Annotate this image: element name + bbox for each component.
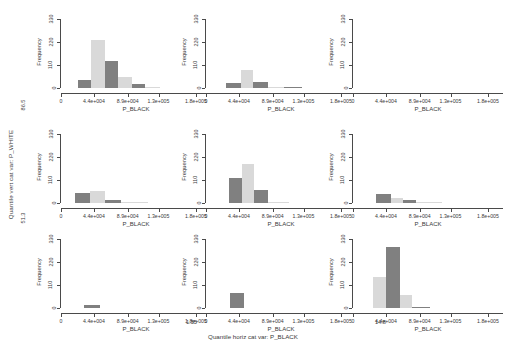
panel-r3c1-y-tickmark-0 bbox=[57, 308, 60, 309]
panel-r3c2-x-tickmark-3 bbox=[304, 314, 305, 317]
panel-r3c3-y-tickmark-3 bbox=[349, 239, 352, 240]
panel-r1c1-x-tick-label-0: 0 bbox=[45, 98, 77, 104]
panel-r1c2-x-tick-label-3: 1.3e+005 bbox=[288, 98, 320, 104]
panel-r3c2-x-tick-label-3: 1.3e+005 bbox=[288, 318, 320, 324]
panel-r2c3: Frequency011022033004.4e+0048.9e+0041.3e… bbox=[325, 129, 506, 231]
panel-r1c1-y-tickmark-0 bbox=[57, 88, 60, 89]
panel-r2c1-x-tickmark-1 bbox=[94, 209, 95, 212]
panel-r1c1-y-tick-label-2: 220 bbox=[37, 38, 55, 46]
panel-r3c1-y-tickmark-3 bbox=[57, 239, 60, 240]
panel-r1c2-bar-4 bbox=[284, 87, 302, 88]
y-tick-text: 110 bbox=[48, 61, 54, 70]
y-tick-text: 0 bbox=[51, 87, 57, 90]
panel-r2c3-x-tick-label-2: 8.9e+004 bbox=[404, 213, 436, 219]
panel-r2c3-bars bbox=[353, 131, 503, 203]
panel-r2c1-y-tickmark-1 bbox=[57, 180, 60, 181]
y-tick-text: 330 bbox=[340, 235, 346, 244]
panel-r3c1-x-tick-label-3: 1.3e+005 bbox=[143, 318, 175, 324]
panel-r1c2-bar-2 bbox=[253, 82, 268, 88]
y-tick-text: 0 bbox=[51, 202, 57, 205]
panel-r3c3-bar-1 bbox=[386, 247, 400, 308]
panel-r2c1-x-tick-label-1: 4.4e+004 bbox=[78, 213, 110, 219]
panel-r3c1-x-tickmark-0 bbox=[61, 314, 62, 317]
panel-r2c1-y-tickmark-2 bbox=[57, 157, 60, 158]
panel-r3c1-x-tickmark-3 bbox=[159, 314, 160, 317]
panel-r2c1-bar-0 bbox=[75, 193, 90, 203]
panel-r1c3-x-tick-label-2: 8.9e+004 bbox=[404, 98, 436, 104]
panel-r3c3-x-tickmark-4 bbox=[488, 314, 489, 317]
panel-r3c2-x-tick-label-0: 0 bbox=[190, 318, 222, 324]
panel-r2c1-y-tick-label-2: 220 bbox=[37, 153, 55, 161]
panel-r1c1-bar-3 bbox=[118, 77, 132, 88]
panel-r2c3-plot-area bbox=[353, 131, 503, 203]
panel-r1c2-x-tick-label-0: 0 bbox=[190, 98, 222, 104]
y-tick-text: 110 bbox=[340, 61, 346, 70]
panel-r1c2-y-tickmark-3 bbox=[202, 19, 205, 20]
panel-r2c2-y-tickmark-1 bbox=[202, 180, 205, 181]
panel-r3c1-bar-0 bbox=[84, 305, 101, 308]
panel-r3c1-y-tickmark-2 bbox=[57, 262, 60, 263]
panel-r1c2-x-tick-label-2: 8.9e+004 bbox=[257, 98, 289, 104]
panel-r3c1-y-tick-label-0: 0 bbox=[37, 304, 55, 312]
panel-r1c2-y-tick-label-2: 220 bbox=[182, 38, 200, 46]
panel-r2c3-bar-3 bbox=[416, 202, 442, 203]
y-tick-text: 110 bbox=[340, 281, 346, 290]
outer-y-axis-label: Quantile vert cat var: P_WHITE bbox=[4, 0, 18, 349]
panel-r2c2-y-tickmark-3 bbox=[202, 134, 205, 135]
panel-r1c3-x-tickmark-3 bbox=[451, 94, 452, 97]
panel-r2c3-x-tick-label-4: 1.8e+005 bbox=[472, 213, 504, 219]
panel-r1c1-bar-2 bbox=[105, 61, 119, 88]
y-tick-text: 110 bbox=[193, 281, 199, 290]
panel-r3c3-y-tick-label-3: 330 bbox=[329, 235, 347, 243]
panel-r3c1-y-tick-label-1: 110 bbox=[37, 281, 55, 289]
panel-r1c3-y-tick-label-0: 0 bbox=[329, 84, 347, 92]
panel-r1c1-y-tick-label-1: 110 bbox=[37, 61, 55, 69]
panel-r1c3-x-tickmark-1 bbox=[386, 94, 387, 97]
panel-r1c3-x-tickmark-4 bbox=[488, 94, 489, 97]
panel-r2c3-y-tick-label-1: 110 bbox=[329, 176, 347, 184]
panel-r3c3-bars bbox=[353, 236, 503, 308]
panel-r3c3-y-axis-label: Frequency bbox=[325, 236, 336, 308]
panel-r1c1-y-tick-label-3: 330 bbox=[37, 15, 55, 23]
y-tick-text: 330 bbox=[340, 130, 346, 139]
panel-r2c1-y-tickmark-3 bbox=[57, 134, 60, 135]
outer-y-tick-1: 51.3 bbox=[12, 213, 34, 223]
panel-r3c2-y-tickmark-2 bbox=[202, 262, 205, 263]
panel-r2c1-x-tickmark-2 bbox=[128, 209, 129, 212]
panel-r2c3-y-tickmark-1 bbox=[349, 180, 352, 181]
panel-r2c1-x-tick-label-2: 8.9e+004 bbox=[112, 213, 144, 219]
panel-r1c3-y-tickmark-3 bbox=[349, 19, 352, 20]
panel-r2c1-y-tick-label-3: 330 bbox=[37, 130, 55, 138]
panel-r3c2-x-tick-label-1: 4.4e+004 bbox=[223, 318, 255, 324]
y-tick-text: 0 bbox=[196, 202, 202, 205]
panel-r3c3-x-tick-label-3: 1.3e+005 bbox=[435, 318, 467, 324]
panel-r1c2-x-tickmark-2 bbox=[273, 94, 274, 97]
panel-r2c2-bar-2 bbox=[254, 190, 268, 203]
panel-r2c1-y-tickmark-0 bbox=[57, 203, 60, 204]
panel-r3c3-x-axis-line bbox=[353, 313, 503, 314]
panel-r2c3-x-tickmark-4 bbox=[488, 209, 489, 212]
panel-r1c1-x-tickmark-2 bbox=[128, 94, 129, 97]
panel-r1c2-x-tick-label-1: 4.4e+004 bbox=[223, 98, 255, 104]
panel-r3c2-y-tick-label-0: 0 bbox=[182, 304, 200, 312]
panel-r2c2-x-tick-label-1: 4.4e+004 bbox=[223, 213, 255, 219]
panel-r2c3-bar-2 bbox=[403, 200, 417, 203]
panel-r1c2-y-tickmark-2 bbox=[202, 42, 205, 43]
panel-r1c3-x-tickmark-2 bbox=[420, 94, 421, 97]
panel-r3c3-x-tick-label-0: 0 bbox=[337, 318, 369, 324]
panel-r2c3-y-tick-label-2: 220 bbox=[329, 153, 347, 161]
outer-y-tick-0: 86.5 bbox=[12, 100, 34, 110]
panel-r2c2-y-tick-label-2: 220 bbox=[182, 153, 200, 161]
y-tick-text: 220 bbox=[48, 153, 54, 162]
panel-r1c3-x-tick-label-3: 1.3e+005 bbox=[435, 98, 467, 104]
panel-r1c1-y-axis-label: Frequency bbox=[33, 16, 44, 88]
panel-r2c2-y-tick-label-1: 110 bbox=[182, 176, 200, 184]
y-tick-text: 0 bbox=[343, 87, 349, 90]
panel-r3c3-y-tick-label-1: 110 bbox=[329, 281, 347, 289]
y-tick-text: 330 bbox=[193, 130, 199, 139]
panel-r2c2-y-tick-label-0: 0 bbox=[182, 199, 200, 207]
panel-r1c3: Frequency011022033004.4e+0048.9e+0041.3e… bbox=[325, 14, 506, 116]
panel-r3c1-x-tick-label-2: 8.9e+004 bbox=[112, 318, 144, 324]
panel-r2c3-x-axis-label: P_BLACK bbox=[353, 221, 503, 227]
panel-r1c3-x-tick-label-4: 1.8e+005 bbox=[472, 98, 504, 104]
